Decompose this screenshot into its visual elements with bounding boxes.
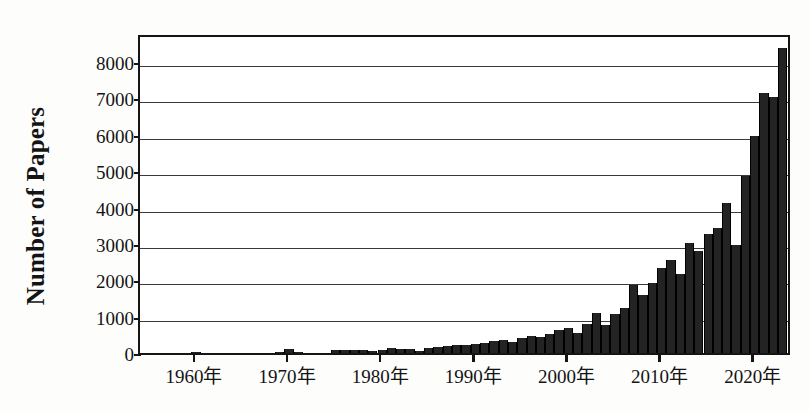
bar xyxy=(396,349,405,353)
bar xyxy=(191,352,200,354)
y-tick-label: 1000 xyxy=(64,309,134,328)
bar xyxy=(713,228,722,353)
bar xyxy=(433,347,442,353)
bar xyxy=(769,97,778,353)
bar xyxy=(415,351,424,353)
y-tick-label: 8000 xyxy=(64,54,134,73)
bar xyxy=(750,136,759,353)
y-tick-label: 7000 xyxy=(64,90,134,109)
bar-series xyxy=(140,37,788,353)
bar xyxy=(359,350,368,353)
plot-area xyxy=(138,35,790,355)
bar xyxy=(489,341,498,353)
bar xyxy=(704,234,713,353)
x-tick-mark xyxy=(658,355,661,362)
bar xyxy=(638,295,647,353)
bar xyxy=(424,348,433,353)
bar xyxy=(387,348,396,353)
x-tick-label: 1970年 xyxy=(259,366,316,388)
bar xyxy=(284,349,293,353)
y-axis-ticks: 010002000300040005000600070008000 xyxy=(60,35,134,355)
y-tick-label: 0 xyxy=(64,345,134,364)
y-tick-label: 4000 xyxy=(64,200,134,219)
bar xyxy=(554,330,563,353)
bar xyxy=(499,340,508,353)
bar xyxy=(601,325,610,353)
bar xyxy=(666,260,675,353)
x-axis-ticks: 1960年1970年1980年1990年2000年2010年2020年 xyxy=(138,355,790,405)
bar xyxy=(722,203,731,353)
bar xyxy=(648,283,657,353)
x-tick-label: 1980年 xyxy=(352,366,409,388)
bar xyxy=(350,350,359,353)
bar xyxy=(368,351,377,353)
bar xyxy=(405,349,414,353)
bar xyxy=(517,338,526,353)
bar xyxy=(778,48,787,353)
bar xyxy=(527,336,536,353)
bar xyxy=(536,337,545,353)
y-tick-label: 2000 xyxy=(64,272,134,291)
y-axis-title-text: Number of Papers xyxy=(22,107,50,306)
bar xyxy=(480,343,489,353)
y-axis-title: Number of Papers xyxy=(10,0,62,412)
x-tick-mark xyxy=(193,355,196,362)
bar xyxy=(294,352,303,354)
x-tick-label: 2020年 xyxy=(724,366,781,388)
bar xyxy=(759,93,768,353)
bar xyxy=(676,274,685,353)
bar xyxy=(564,328,573,353)
x-tick-label: 1990年 xyxy=(445,366,502,388)
bar xyxy=(378,350,387,353)
bar xyxy=(731,245,740,353)
bar xyxy=(582,324,591,353)
bar xyxy=(461,345,470,353)
bar xyxy=(620,308,629,353)
x-tick-mark xyxy=(379,355,382,362)
bar xyxy=(545,334,554,353)
x-tick-mark xyxy=(472,355,475,362)
bar xyxy=(331,350,340,353)
y-tick-label: 5000 xyxy=(64,163,134,182)
bar xyxy=(685,243,694,353)
bar xyxy=(471,344,480,353)
y-tick-label: 6000 xyxy=(64,127,134,146)
bar xyxy=(508,342,517,353)
x-tick-label: 2000年 xyxy=(538,366,595,388)
chart-figure: Number of Papers 01000200030004000500060… xyxy=(0,0,809,412)
x-tick-mark xyxy=(286,355,289,362)
bar xyxy=(657,268,666,353)
bar xyxy=(452,345,461,353)
x-tick-mark xyxy=(751,355,754,362)
y-tick-label: 3000 xyxy=(64,236,134,255)
bar xyxy=(340,350,349,353)
x-tick-mark xyxy=(565,355,568,362)
bar xyxy=(443,346,452,353)
x-tick-label: 1960年 xyxy=(165,366,222,388)
bar xyxy=(275,352,284,354)
bar xyxy=(741,176,750,353)
bar xyxy=(629,285,638,353)
bar xyxy=(592,313,601,353)
bar xyxy=(694,251,703,353)
bar xyxy=(573,333,582,353)
x-tick-label: 2010年 xyxy=(631,366,688,388)
bar xyxy=(610,314,619,353)
